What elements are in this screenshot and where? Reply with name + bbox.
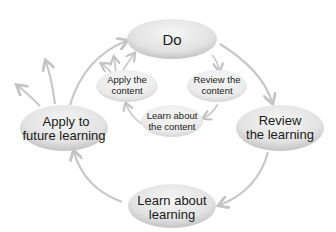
arrow-apply-content-to-do <box>122 54 134 72</box>
svg-text:Learn about: Learn about <box>137 193 207 208</box>
arrow-apply-out-2 <box>46 62 55 104</box>
svg-text:content: content <box>111 85 143 96</box>
node-apply-content: Apply the content <box>96 70 158 102</box>
svg-text:Apply to: Apply to <box>43 114 90 129</box>
svg-text:the learning: the learning <box>246 127 314 142</box>
node-review-learning: Review the learning <box>236 105 324 151</box>
svg-text:the content: the content <box>148 121 195 132</box>
arrow-review-content-to-learn-content <box>204 104 218 118</box>
node-do: Do <box>127 19 217 59</box>
node-learn-content: Learn about the content <box>141 105 203 137</box>
svg-text:Review the: Review the <box>194 74 241 85</box>
svg-text:Review: Review <box>259 113 302 128</box>
svg-text:Learn about: Learn about <box>147 110 198 121</box>
arrow-review-to-learn <box>220 152 268 205</box>
arrow-apply-out-1 <box>18 86 40 106</box>
node-learn-about-learning: Learn about learning <box>128 184 216 228</box>
node-apply-future: Apply to future learning <box>20 105 108 151</box>
svg-text:content: content <box>201 85 233 96</box>
svg-text:learning: learning <box>149 207 195 222</box>
learning-cycle-diagram: Do Review the learning Learn about learn… <box>0 0 336 232</box>
svg-text:Apply the: Apply the <box>107 74 147 85</box>
node-review-content: Review the content <box>187 70 247 102</box>
arrow-do-to-review-content <box>212 55 219 70</box>
arrow-apply-content-out-2 <box>114 58 116 72</box>
arrow-learn-to-apply <box>74 152 122 202</box>
arrow-learn-content-to-apply-content <box>126 104 142 124</box>
svg-text:Do: Do <box>162 31 181 48</box>
svg-text:future learning: future learning <box>22 128 105 143</box>
